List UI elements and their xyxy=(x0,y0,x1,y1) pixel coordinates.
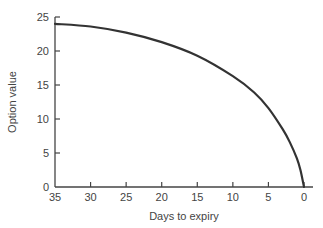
option-value-curve xyxy=(55,24,304,187)
x-tick-label: 35 xyxy=(49,191,61,203)
y-tick-label: 20 xyxy=(37,45,49,57)
y-tick-label: 5 xyxy=(43,147,49,159)
axes xyxy=(55,17,313,187)
y-tick-label: 15 xyxy=(37,79,49,91)
x-axis-ticks: 35302520151050 xyxy=(49,182,307,203)
option-value-chart: 0510152025 35302520151050 Days to expiry… xyxy=(0,0,323,228)
x-tick-label: 5 xyxy=(265,191,271,203)
x-tick-label: 15 xyxy=(191,191,203,203)
y-axis-label: Option value xyxy=(6,71,18,133)
x-axis-label: Days to expiry xyxy=(149,210,219,222)
x-tick-label: 30 xyxy=(84,191,96,203)
x-tick-label: 25 xyxy=(120,191,132,203)
y-axis-ticks: 0510152025 xyxy=(37,11,60,193)
x-tick-label: 20 xyxy=(156,191,168,203)
x-tick-label: 0 xyxy=(301,191,307,203)
y-tick-label: 10 xyxy=(37,113,49,125)
y-tick-label: 25 xyxy=(37,11,49,23)
x-tick-label: 10 xyxy=(227,191,239,203)
